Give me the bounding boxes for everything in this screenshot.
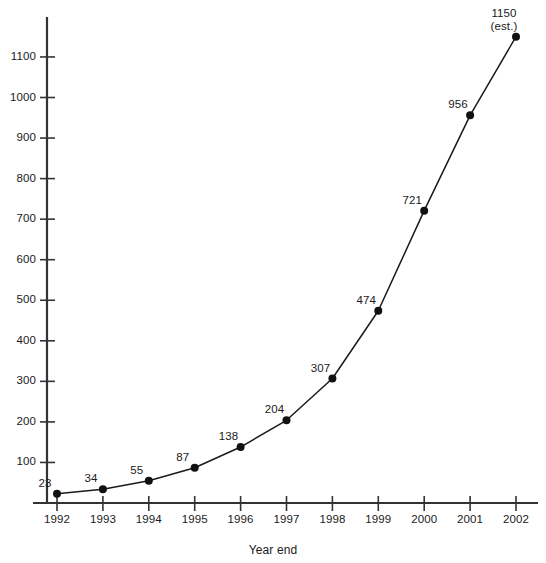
data-point-marker [466, 111, 474, 119]
data-point-marker [374, 307, 382, 315]
data-point-label: 721 [377, 194, 447, 208]
chart-axes [33, 17, 538, 504]
data-point-marker [99, 485, 107, 493]
x-axis-tick-label: 2002 [486, 514, 546, 526]
data-point-label: 1150(est.) [469, 7, 539, 34]
data-point-marker [53, 490, 61, 498]
data-point-marker [420, 207, 428, 215]
y-axis-tick-label: 300 [17, 375, 37, 387]
data-point-estimate-note: (est.) [469, 20, 539, 34]
data-point-label: 138 [194, 430, 264, 444]
data-point-label: 87 [148, 451, 218, 465]
data-point-value: 138 [219, 430, 239, 442]
y-axis-tick-label: 700 [17, 213, 37, 225]
data-point-value: 204 [265, 403, 285, 415]
y-axis-tick-label: 100 [17, 456, 37, 468]
data-point-value: 23 [39, 477, 52, 489]
y-axis-tick-label: 600 [17, 254, 37, 266]
data-point-marker [237, 443, 245, 451]
data-point-marker [328, 375, 336, 383]
data-point-value: 721 [402, 194, 422, 206]
data-point-marker [145, 477, 153, 485]
data-point-value: 1150 [491, 7, 516, 19]
y-axis-tick-label: 400 [17, 335, 37, 347]
data-point-label: 307 [285, 362, 355, 376]
data-point-marker [191, 464, 199, 472]
data-point-value: 55 [130, 464, 143, 476]
data-point-value: 307 [311, 362, 331, 374]
data-point-marker [283, 416, 291, 424]
data-point-label: 956 [423, 98, 493, 112]
y-axis-tick-label: 500 [17, 294, 37, 306]
y-axis-tick-label: 1100 [11, 51, 36, 63]
line-chart: 10020030040050060070080090010001100 1992… [0, 0, 546, 563]
y-axis-tick-label: 900 [17, 132, 37, 144]
data-point-value: 956 [448, 98, 468, 110]
data-point-label: 474 [331, 294, 401, 308]
y-axis-tick-label: 200 [17, 416, 37, 428]
x-axis-title: Year end [0, 543, 546, 557]
y-axis-tick-label: 800 [17, 173, 37, 185]
y-axis-tick-label: 1000 [10, 92, 36, 104]
data-point-value: 87 [176, 451, 189, 463]
data-point-value: 474 [357, 294, 377, 306]
data-point-value: 34 [84, 472, 97, 484]
data-point-label: 204 [240, 403, 310, 417]
data-point-marker [512, 33, 520, 41]
data-point-label: 55 [102, 464, 172, 478]
